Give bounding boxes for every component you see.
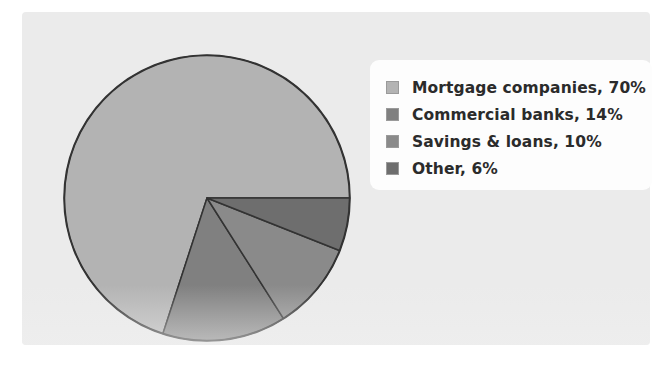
legend-item-label: Mortgage companies, 70%	[412, 79, 646, 97]
legend-swatch-icon	[386, 135, 399, 148]
pie-chart	[62, 53, 352, 343]
legend-item-label: Savings & loans, 10%	[412, 133, 602, 151]
legend-swatch-icon	[386, 108, 399, 121]
legend-item-mortgage-companies[interactable]: Mortgage companies, 70%	[386, 74, 652, 101]
chart-screenshot: Mortgage companies, 70% Commercial banks…	[0, 0, 671, 375]
legend-item-savings-and-loans[interactable]: Savings & loans, 10%	[386, 128, 652, 155]
legend-item-label: Other, 6%	[412, 160, 498, 178]
chart-panel: Mortgage companies, 70% Commercial banks…	[22, 12, 650, 345]
legend-swatch-icon	[386, 81, 399, 94]
legend-item-other[interactable]: Other, 6%	[386, 155, 652, 182]
pie-chart-svg	[62, 53, 352, 343]
pie-slice-group	[64, 56, 349, 341]
legend-swatch-icon	[386, 162, 399, 175]
legend-item-commercial-banks[interactable]: Commercial banks, 14%	[386, 101, 652, 128]
chart-legend: Mortgage companies, 70% Commercial banks…	[370, 60, 652, 190]
legend-item-label: Commercial banks, 14%	[412, 106, 623, 124]
